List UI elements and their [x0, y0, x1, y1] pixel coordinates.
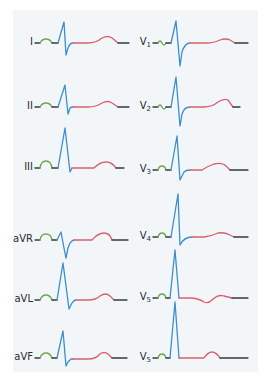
waveform-lead-V5: [153, 250, 248, 303]
waveform-lead-I: [35, 22, 129, 55]
waveform-lead-aVL: [35, 263, 127, 309]
waveform-lead-III: [35, 128, 124, 172]
waveform-lead-V3: [153, 136, 248, 180]
waveform-lead-V4: [153, 194, 248, 245]
waveform-lead-II: [35, 85, 129, 114]
waveform-lead-aVF: [35, 331, 127, 366]
waveform-lead-V1: [153, 21, 248, 66]
waveform-lead-V5-second: [153, 302, 248, 358]
ecg-waveforms: [0, 0, 267, 381]
waveform-lead-V2: [153, 77, 240, 126]
waveform-lead-aVR: [35, 232, 128, 258]
